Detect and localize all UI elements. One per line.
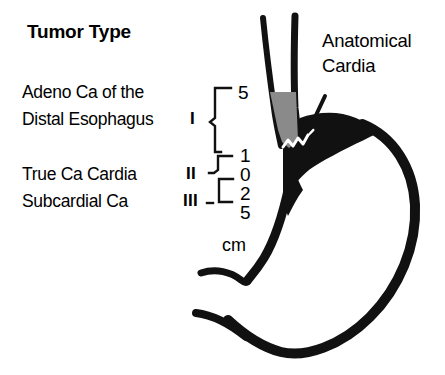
bracket-type-2 [209, 156, 232, 173]
anatomical-cardia-line1: Anatomical [322, 28, 412, 53]
tumor-type-1-label-line2: Distal Esophagus [22, 109, 153, 130]
figure-canvas: Tumor Type Adeno Ca of the Distal Esopha… [0, 0, 445, 375]
tumor-type-1-label-line1: Adeno Ca of the [22, 82, 144, 103]
tumor-type-2-numeral: II [186, 164, 196, 184]
scale-tick-5-proximal: 5 [238, 82, 249, 104]
bracket-type-3 [219, 179, 233, 202]
scale-unit-label: cm [222, 235, 246, 256]
stomach-outline [247, 186, 289, 281]
tumor-type-3-label: Subcardial Ca [22, 191, 128, 212]
bracket-type-1 [210, 88, 231, 152]
scale-tick-5-distal: 5 [240, 202, 251, 224]
duodenum [201, 271, 248, 283]
anatomical-cardia-line2: Cardia [322, 53, 412, 78]
tumor-type-3-numeral: III [183, 191, 198, 211]
anatomical-cardia-annotation: Anatomical Cardia [322, 28, 412, 78]
page-title: Tumor Type [27, 21, 131, 43]
tumor-type-1-numeral: I [190, 109, 195, 129]
tumor-type-2-label: True Ca Cardia [22, 164, 137, 185]
